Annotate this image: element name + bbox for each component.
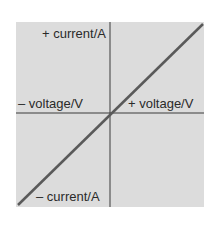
iv-graph-area: + current/A – current/A – voltage/V + vo… [16,22,204,207]
y-negative-label: – current/A [36,190,100,203]
graph-svg [16,22,204,207]
x-negative-label: – voltage/V [18,97,83,110]
x-positive-label: + voltage/V [128,97,193,110]
y-positive-label: + current/A [42,27,106,40]
